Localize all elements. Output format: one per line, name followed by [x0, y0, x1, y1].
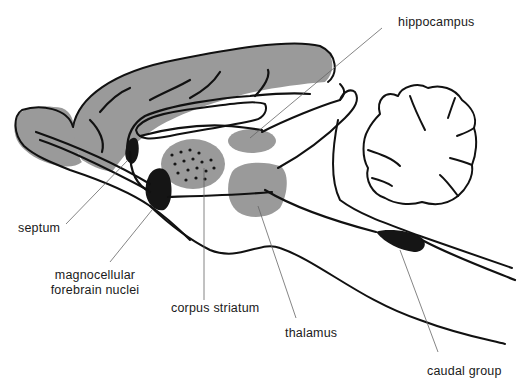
caudal-group-nucleus	[376, 230, 425, 252]
label-septum: septum	[18, 221, 60, 236]
cerebellum	[364, 85, 477, 204]
label-magnocellular-line1: magnocellular	[50, 268, 140, 283]
label-corpus-striatum: corpus striatum	[171, 301, 259, 316]
hippocampus-region	[228, 129, 276, 153]
thalamus-region	[228, 163, 287, 217]
label-magnocellular-forebrain-nuclei: magnocellular forebrain nuclei	[50, 268, 140, 298]
label-thalamus: thalamus	[285, 326, 337, 341]
label-caudal-group: caudal group	[427, 364, 502, 379]
label-magnocellular-line2: forebrain nuclei	[50, 283, 140, 298]
label-hippocampus: hippocampus	[398, 15, 475, 30]
brain-diagram	[0, 0, 522, 390]
magnocellular-nucleus	[146, 168, 172, 210]
